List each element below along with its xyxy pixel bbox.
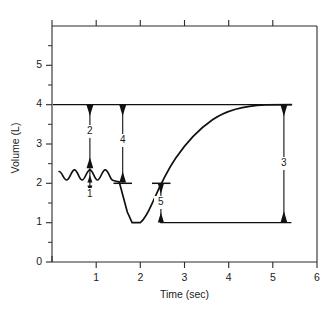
arrowhead-down-5 <box>158 213 164 223</box>
arrowhead-down-2 <box>87 157 94 168</box>
y-axis-tick-labels: 0 1 2 3 4 5 <box>36 58 42 267</box>
arrowhead-up-2 <box>87 105 94 116</box>
x-tick-label: 4 <box>226 271 232 283</box>
annotation-label-1: 1 <box>87 188 93 199</box>
spirogram-curve <box>59 105 291 223</box>
spirometry-chart: 0 1 2 3 4 5 1 2 <box>0 0 334 310</box>
annotation-1-group: 1 <box>84 168 96 200</box>
x-tick-label: 2 <box>137 271 143 283</box>
annotation-label-3: 3 <box>281 157 287 168</box>
volume-tracing <box>59 105 291 223</box>
x-tick-label: 6 <box>314 271 320 283</box>
x-axis-tick-labels: 1 2 3 4 5 6 <box>93 271 320 283</box>
y-tick-label: 5 <box>36 58 42 70</box>
arrowhead-up-3 <box>281 105 288 117</box>
annotation-label-2: 2 <box>87 125 93 136</box>
y-axis-title: Volume (L) <box>9 123 21 174</box>
x-tick-label: 1 <box>93 271 99 283</box>
arrowhead-down-4 <box>119 172 126 183</box>
chart-canvas: 0 1 2 3 4 5 1 2 <box>0 0 334 310</box>
annotation-3-group: 3 <box>277 105 291 223</box>
top-border-ticks <box>52 20 273 26</box>
y-axis-ticks <box>46 46 52 262</box>
x-tick-label: 3 <box>182 271 188 283</box>
x-axis-title: Time (sec) <box>160 288 209 300</box>
annotation-2-group: 2 <box>83 105 97 169</box>
arrowhead-up-4 <box>119 105 126 116</box>
arrowhead-down-3 <box>281 211 288 223</box>
annotation-label-4: 4 <box>120 134 126 145</box>
axis-frame <box>52 26 317 262</box>
annotation-5-group: 5 <box>152 183 171 222</box>
y-tick-label: 2 <box>36 176 42 188</box>
annotation-label-5: 5 <box>158 196 164 207</box>
y-tick-label: 0 <box>36 255 42 267</box>
arrowhead-up-1 <box>87 175 92 183</box>
y-tick-label: 1 <box>36 215 42 227</box>
y-tick-label: 3 <box>36 137 42 149</box>
x-tick-label: 5 <box>270 271 276 283</box>
annotation-4-group: 4 <box>114 105 133 184</box>
y-tick-label: 4 <box>36 97 42 109</box>
